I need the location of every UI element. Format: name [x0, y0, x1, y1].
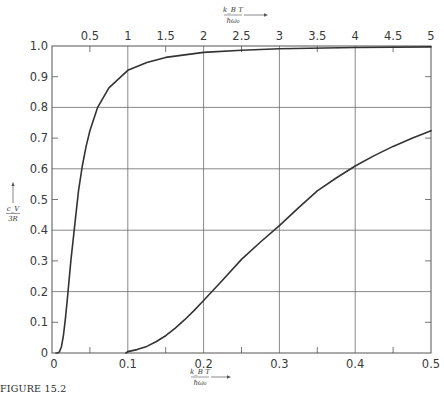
x-tick-0.5: 0.5: [422, 357, 440, 371]
plot-frame: [52, 46, 431, 353]
x2-tick-0.5: 0.5: [81, 29, 99, 43]
y-axis-label-numerator: c_V: [7, 205, 20, 213]
y-tick-0.2: 0.2: [30, 285, 48, 299]
x-tick-0.3: 0.3: [270, 357, 288, 371]
x2-tick-1: 1: [124, 29, 131, 43]
y-tick-0: 0: [41, 346, 48, 360]
top-axis-label-numerator: k_B T: [223, 6, 244, 14]
top-axis-label: k_B T ħω₀: [223, 6, 268, 25]
x2-tick-1.5: 1.5: [157, 29, 175, 43]
y-tick-labels: 0 0.1 0.2 0.3 0.4 0.5 0.6 0.7 0.8 0.9 1.…: [30, 39, 48, 360]
y-tick-0.5: 0.5: [30, 193, 48, 207]
y-tick-0.4: 0.4: [30, 223, 48, 237]
x-tick-0.1: 0.1: [119, 357, 137, 371]
y-tick-1.0: 1.0: [30, 39, 48, 53]
x2-tick-4: 4: [352, 29, 359, 43]
top-tick-labels: 0.5 1 1.5 2 2.5 3 3.5 4 4.5 5: [81, 29, 435, 43]
y-tick-0.7: 0.7: [30, 131, 48, 145]
curve-top-axis-scale: [56, 47, 431, 353]
figure-caption: FIGURE 15.2: [0, 383, 66, 394]
x2-tick-2: 2: [200, 29, 207, 43]
curve-bottom-axis-scale: [126, 131, 431, 353]
y-tick-0.3: 0.3: [30, 254, 48, 268]
y-tick-0.1: 0.1: [30, 315, 48, 329]
y-tick-0.6: 0.6: [30, 162, 48, 176]
x2-tick-5: 5: [427, 29, 434, 43]
bottom-axis-label-denominator: ħω₀: [193, 379, 206, 387]
bottom-axis-label-numerator: k_B T: [190, 368, 211, 376]
minor-ticks: [52, 46, 431, 353]
x2-tick-3.5: 3.5: [308, 29, 326, 43]
x2-tick-2.5: 2.5: [232, 29, 250, 43]
y-tick-0.9: 0.9: [30, 70, 48, 84]
x2-tick-4.5: 4.5: [384, 29, 402, 43]
chart-canvas: 0 0.1 0.2 0.3 0.4 0.5 0.6 0.7 0.8 0.9 1.…: [0, 0, 444, 400]
x-tick-0.4: 0.4: [346, 357, 364, 371]
grid-lines: [52, 46, 431, 353]
top-axis-label-denominator: ħω₀: [226, 17, 239, 25]
y-axis-label-denominator: 3R: [8, 215, 18, 223]
x2-tick-3: 3: [276, 29, 283, 43]
y-tick-0.8: 0.8: [30, 100, 48, 114]
x-tick-0: 0: [50, 357, 57, 371]
y-axis-label: c_V 3R: [6, 182, 20, 223]
bottom-tick-labels: 0 0.1 0.2 0.3 0.4 0.5: [50, 357, 440, 371]
